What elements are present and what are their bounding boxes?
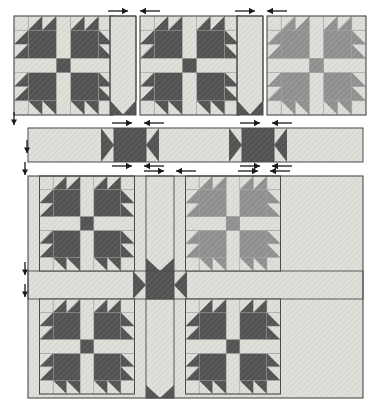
quilt-block-top-right-sash-bottom — [226, 230, 240, 271]
bears-paw-block-2-paw-br-square — [197, 73, 225, 101]
quilt-block-top-left-sash-bottom — [80, 230, 94, 271]
bears-paw-block-2-sash-right — [197, 58, 239, 72]
bears-paw-block-3-center-square — [309, 58, 323, 72]
quilt-cornerstone — [146, 271, 174, 299]
bears-paw-block-3-paw-br-square — [324, 73, 352, 101]
vertical-sashing-strip-2-light-body — [237, 16, 263, 115]
quilt-block-top-right-center-square — [226, 217, 240, 231]
quilt-block-bottom-left-paw-tr-square — [94, 313, 121, 340]
bears-paw-block-1-sash-top — [56, 16, 70, 58]
bears-paw-block-2-paw-tr-square — [197, 30, 225, 58]
sashing-row-base — [28, 128, 363, 162]
quilt-block-top-left-sash-left — [40, 217, 81, 231]
quilt-block-top-right-sash-right — [240, 217, 281, 231]
bears-paw-block-3-paw-bl-square — [281, 73, 309, 101]
quilt-block-bottom-left — [40, 299, 135, 394]
bears-paw-block-1-paw-bl-square — [28, 73, 56, 101]
quilt-block-bottom-right-paw-tr-square — [240, 313, 267, 340]
bears-paw-block-2 — [140, 16, 239, 115]
quilt-block-top-left-paw-bl-square — [53, 230, 80, 257]
quilt-block-top-left-center-square — [80, 217, 94, 231]
bears-paw-block-3-paw-br-corner — [352, 101, 366, 115]
quilt-block-top-left-paw-bl-corner — [40, 257, 54, 271]
quilt-block-top-right-paw-bl-corner — [186, 257, 200, 271]
bears-paw-block-2-center-square — [182, 58, 196, 72]
quilt-block-bottom-right-center-square — [226, 340, 240, 354]
quilt-block-bottom-right-sash-top — [226, 299, 240, 340]
bears-paw-block-1-paw-tl-corner — [14, 16, 28, 30]
bears-paw-block-3-paw-tr-corner — [352, 16, 366, 30]
quilt-block-bottom-right-paw-br-square — [240, 353, 267, 380]
quilt-block-bottom-left-sash-left — [40, 340, 81, 354]
quilt-block-top-left-sash-right — [94, 217, 135, 231]
quilt-block-bottom-right-sash-bottom — [226, 353, 240, 394]
quilt-block-top-right — [186, 176, 281, 271]
quilt-block-bottom-left-paw-bl-square — [53, 353, 80, 380]
layer-blocks — [14, 16, 366, 115]
quilt-block-top-right-paw-tr-corner — [267, 176, 281, 190]
bears-paw-block-2-sash-left — [140, 58, 182, 72]
sashing-row — [28, 128, 363, 162]
bears-paw-block-2-paw-tl-corner — [140, 16, 154, 30]
quilt-block-bottom-right-paw-tl-corner — [186, 299, 200, 313]
quilt-block-bottom-right-paw-tr-corner — [267, 299, 281, 313]
quilt-block-top-left-paw-br-square — [94, 230, 121, 257]
vertical-sashing-strip-1-light-body — [110, 16, 136, 115]
cornerstone-1 — [114, 128, 146, 162]
quilt-block-bottom-left-sash-top — [80, 299, 94, 340]
quilt-block-top-right-sash-top — [226, 176, 240, 217]
quilt-block-top-left-paw-br-corner — [121, 257, 135, 271]
quilt-block-bottom-right-paw-tl-square — [199, 313, 226, 340]
cornerstone-2 — [242, 128, 274, 162]
quilt-block-bottom-right-sash-left — [186, 340, 227, 354]
quilt-block-top-right-paw-br-corner — [267, 257, 281, 271]
quilt-block-top-left — [40, 176, 135, 271]
quilt-block-bottom-right-paw-br-corner — [267, 380, 281, 394]
quilt-block-bottom-left-sash-right — [94, 340, 135, 354]
quilt-block-top-left-sash-top — [80, 176, 94, 217]
quilt-assembly-diagram — [0, 0, 370, 404]
quilt-block-bottom-left-paw-tr-corner — [121, 299, 135, 313]
quilt-block-top-right-paw-bl-square — [199, 230, 226, 257]
bears-paw-block-3-paw-tr-square — [324, 30, 352, 58]
bears-paw-block-3-sash-top — [309, 16, 323, 58]
quilt-block-bottom-left-paw-bl-corner — [40, 380, 54, 394]
quilt-horizontal-sashing — [28, 271, 363, 299]
quilt-block-top-right-paw-tl-corner — [186, 176, 200, 190]
bears-paw-block-3-sash-left — [267, 58, 309, 72]
quilt-block-top-left-paw-tr-corner — [121, 176, 135, 190]
quilt-block-bottom-left-paw-br-corner — [121, 380, 135, 394]
bears-paw-block-3 — [267, 16, 366, 115]
quilt-block-top-right-paw-tr-square — [240, 190, 267, 217]
bears-paw-block-1-sash-right — [71, 58, 113, 72]
vertical-sashing-strip-2 — [237, 16, 263, 115]
bears-paw-block-3-sash-right — [324, 58, 366, 72]
bears-paw-block-2-paw-bl-square — [154, 73, 182, 101]
quilt-block-bottom-right-sash-right — [240, 340, 281, 354]
quilt-diagram-canvas — [0, 0, 370, 404]
bears-paw-block-1-paw-br-square — [71, 73, 99, 101]
bears-paw-block-2-sash-top — [182, 16, 196, 58]
bears-paw-block-1-paw-tr-square — [71, 30, 99, 58]
quilt-block-bottom-left-paw-tl-square — [53, 313, 80, 340]
vertical-sashing-strip-1 — [110, 16, 136, 115]
layer-quilt — [28, 176, 363, 398]
quilt-block-top-right-paw-tl-square — [199, 190, 226, 217]
bears-paw-block-1-sash-bottom — [56, 73, 70, 115]
assembled-quilt — [28, 176, 363, 398]
bears-paw-block-3-paw-tl-corner — [267, 16, 281, 30]
bears-paw-block-2-paw-bl-corner — [140, 101, 154, 115]
layer-sashing — [28, 128, 363, 162]
quilt-block-bottom-right-paw-bl-square — [199, 353, 226, 380]
bears-paw-block-1-center-square — [56, 58, 70, 72]
bears-paw-block-3-paw-bl-corner — [267, 101, 281, 115]
quilt-block-top-right-paw-br-square — [240, 230, 267, 257]
bears-paw-block-1-sash-left — [14, 58, 56, 72]
bears-paw-block-2-sash-bottom — [182, 73, 196, 115]
quilt-block-top-left-paw-tl-corner — [40, 176, 54, 190]
quilt-block-bottom-left-paw-br-square — [94, 353, 121, 380]
quilt-block-bottom-left-center-square — [80, 340, 94, 354]
bears-paw-block-1 — [14, 16, 113, 115]
quilt-block-top-left-paw-tl-square — [53, 190, 80, 217]
quilt-block-bottom-left-paw-tl-corner — [40, 299, 54, 313]
